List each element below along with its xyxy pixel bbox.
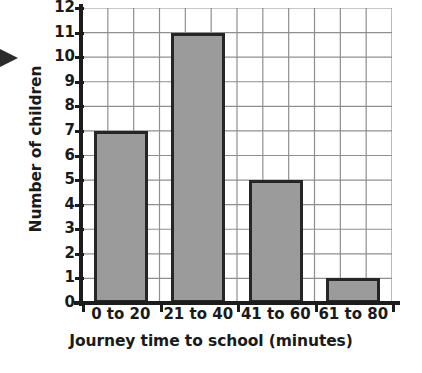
bar-chart: Number of children 1211109876543210 Jour…: [0, 0, 422, 373]
bar: [94, 131, 148, 303]
y-axis-tick-label: 11: [45, 25, 75, 40]
y-axis-tick-mark: [75, 228, 84, 231]
y-axis-tick-mark: [75, 32, 84, 35]
x-axis-tick-mark: [392, 303, 395, 312]
y-axis-tick-label: 8: [45, 98, 75, 113]
y-axis-tick-label: 6: [45, 148, 75, 163]
y-axis-tick-mark: [75, 7, 84, 10]
bar: [249, 180, 303, 303]
y-axis-tick-label: 5: [45, 172, 75, 187]
y-axis-tick-mark: [75, 56, 84, 59]
y-axis-tick-mark: [75, 277, 84, 280]
y-axis-tick-label: 4: [45, 197, 75, 212]
y-axis-tick-mark: [75, 155, 84, 158]
y-axis-tick-mark: [75, 302, 84, 305]
bar: [171, 33, 225, 303]
y-axis-tick-label: 2: [45, 246, 75, 261]
y-axis-tick-label: 0: [45, 295, 75, 310]
bars-layer: [82, 8, 392, 303]
y-axis-tick-mark: [75, 253, 84, 256]
y-axis-tick-labels: 1211109876543210: [40, 0, 75, 310]
y-axis-tick-label: 7: [45, 123, 75, 138]
y-axis-tick-label: 9: [45, 74, 75, 89]
y-axis-tick-label: 3: [45, 221, 75, 236]
y-axis-tick-label: 1: [45, 270, 75, 285]
x-axis-tick-label: 21 to 40: [153, 307, 243, 322]
arrow-right-icon: [0, 46, 18, 70]
x-axis-tick-mark: [160, 303, 163, 312]
y-axis-tick-mark: [75, 179, 84, 182]
x-axis-tick-mark: [237, 303, 240, 312]
x-axis-tick-label: 0 to 20: [76, 307, 166, 322]
y-axis-tick-label: 12: [45, 0, 75, 15]
x-axis-tick-label: 61 to 80: [308, 307, 398, 322]
y-axis-tick-mark: [75, 130, 84, 133]
y-axis-tick-label: 10: [45, 49, 75, 64]
plot-area: [82, 8, 392, 303]
x-axis-tick-mark: [315, 303, 318, 312]
y-axis-tick-mark: [75, 204, 84, 207]
y-axis-tick-mark: [75, 81, 84, 84]
x-axis-title: Journey time to school (minutes): [0, 332, 422, 350]
bar: [326, 278, 380, 303]
y-axis-tick-mark: [75, 105, 84, 108]
x-axis-tick-label: 41 to 60: [231, 307, 321, 322]
